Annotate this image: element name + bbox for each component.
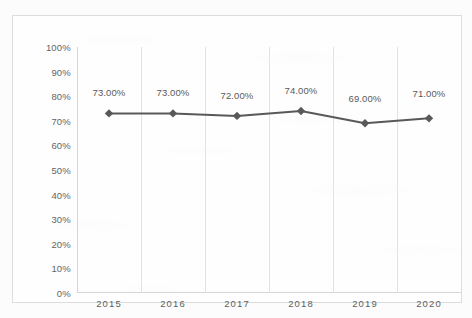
y-axis-tick-labels: 100%90%80%70%60%50%40%30%20%10%0%	[25, 47, 71, 293]
x-tick-label: 2018	[288, 298, 314, 309]
y-tick-label: 10%	[25, 263, 71, 274]
data-point-label: 72.00%	[221, 90, 254, 101]
y-tick-label: 40%	[25, 189, 71, 200]
y-tick-label: 20%	[25, 238, 71, 249]
data-point-label: 71.00%	[413, 88, 446, 99]
y-tick-label: 0%	[25, 288, 71, 299]
chart-frame: 100%90%80%70%60%50%40%30%20%10%0% 73.00%…	[12, 15, 462, 303]
x-tick-label: 2017	[224, 298, 250, 309]
y-tick-label: 100%	[25, 42, 71, 53]
x-tick-label: 2015	[96, 298, 122, 309]
y-tick-label: 60%	[25, 140, 71, 151]
line-series	[77, 47, 461, 293]
y-tick-label: 70%	[25, 115, 71, 126]
x-tick-label: 2016	[160, 298, 186, 309]
series-polyline	[109, 111, 429, 123]
data-point-marker	[105, 109, 113, 117]
data-point-marker	[169, 109, 177, 117]
x-tick-label: 2019	[352, 298, 378, 309]
y-tick-label: 50%	[25, 165, 71, 176]
figure-caption-clipped	[28, 309, 328, 318]
series-markers	[105, 107, 433, 128]
plot-area: 73.00%73.00%72.00%74.00%69.00%71.00%	[77, 47, 461, 293]
data-point-label: 74.00%	[285, 85, 318, 96]
y-tick-label: 30%	[25, 214, 71, 225]
data-point-label: 73.00%	[93, 87, 126, 98]
data-point-marker	[425, 114, 433, 122]
y-tick-label: 80%	[25, 91, 71, 102]
data-point-marker	[233, 112, 241, 120]
data-point-label: 73.00%	[157, 87, 190, 98]
data-point-label: 69.00%	[349, 93, 382, 104]
data-point-marker	[361, 119, 369, 127]
x-tick-label: 2020	[416, 298, 442, 309]
data-point-marker	[297, 107, 305, 115]
y-tick-label: 90%	[25, 66, 71, 77]
